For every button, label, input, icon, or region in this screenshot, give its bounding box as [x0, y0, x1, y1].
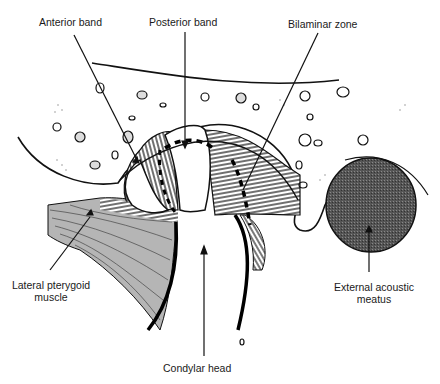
- lateral-pterygoid-label-line1: Lateral pterygoid: [11, 279, 91, 291]
- lateral-pterygoid-label: Lateral pterygoid muscle: [11, 279, 91, 303]
- anterior-band-label: Anterior band: [39, 16, 102, 28]
- tmj-diagram: Anterior band Posterior band Bilaminar z…: [0, 0, 440, 384]
- bilaminar-zone-region: [205, 130, 300, 215]
- posterior-capsule: [240, 215, 265, 270]
- external-acoustic-label-line2: meatus: [334, 293, 414, 305]
- leader-lines: [50, 32, 372, 356]
- lateral-pterygoid-label-line2: muscle: [11, 291, 91, 303]
- bilaminar-zone-label: Bilaminar zone: [288, 18, 357, 30]
- posterior-band-label: Posterior band: [149, 16, 217, 28]
- diagram-drawing: [0, 0, 440, 384]
- external-acoustic-label-line1: External acoustic: [334, 281, 414, 293]
- external-acoustic-meatus-shape: [326, 158, 416, 252]
- external-acoustic-meatus-label: External acoustic meatus: [334, 281, 414, 305]
- condylar-head-label: Condylar head: [163, 362, 231, 374]
- condyle-posterior-outline: [235, 215, 247, 330]
